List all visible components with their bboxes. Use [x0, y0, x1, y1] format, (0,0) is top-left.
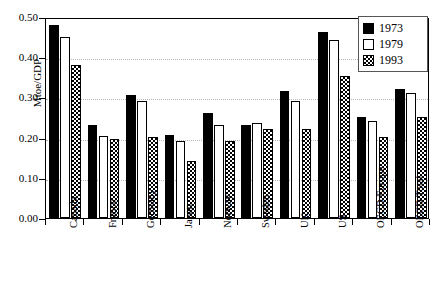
bar	[60, 37, 70, 218]
bar	[291, 101, 301, 218]
y-tick-label: 0.00	[4, 213, 38, 224]
bar	[126, 95, 136, 218]
x-category-label: Canada	[69, 197, 80, 229]
legend-label-1973: 1973	[379, 22, 403, 34]
bar	[340, 76, 350, 218]
bar	[88, 125, 98, 218]
x-tick-mark	[45, 219, 46, 225]
bar-group	[203, 19, 235, 218]
x-tick-mark	[237, 219, 238, 225]
y-tick-label: 0.10	[4, 173, 38, 184]
bar-group	[88, 19, 120, 218]
x-tick-mark	[314, 219, 315, 225]
bar	[302, 129, 312, 218]
bar	[329, 40, 339, 218]
y-tick-label: 0.20	[4, 133, 38, 144]
bar	[357, 117, 367, 218]
bar	[318, 32, 328, 218]
x-category-label: Japan	[184, 204, 195, 228]
bar-group	[241, 19, 273, 218]
legend-item-1979: 1979	[363, 36, 423, 52]
bar-group	[49, 19, 81, 218]
y-tick-label: 0.40	[4, 52, 38, 63]
x-category-label: Norway	[223, 194, 234, 228]
x-tick-mark	[83, 219, 84, 225]
legend-swatch-1993-icon	[363, 55, 374, 66]
y-tick-label: 0.50	[4, 12, 38, 23]
x-category-label: OECD Europe	[376, 166, 387, 228]
bar	[49, 25, 59, 218]
x-tick-mark	[122, 219, 123, 225]
bar	[280, 91, 290, 218]
y-axis-label: Mtoe/GDP	[31, 23, 45, 143]
x-tick-mark	[352, 219, 353, 225]
legend-item-1973: 1973	[363, 20, 423, 36]
x-category-label: France	[108, 199, 119, 228]
y-tick-label: 0.30	[4, 92, 38, 103]
bar	[165, 135, 175, 218]
legend-swatch-1979-icon	[363, 39, 374, 50]
bar	[203, 113, 213, 218]
bar-group	[165, 19, 197, 218]
legend-swatch-1973-icon	[363, 23, 374, 34]
legend: 1973 1979 1993	[358, 16, 428, 72]
x-category-label: OECD Total	[415, 176, 426, 228]
bar	[395, 89, 405, 218]
x-tick-mark	[429, 219, 430, 225]
x-tick-mark	[391, 219, 392, 225]
x-tick-mark	[275, 219, 276, 225]
legend-label-1993: 1993	[379, 54, 403, 66]
x-tick-mark	[199, 219, 200, 225]
x-category-label: Germany	[146, 189, 157, 228]
x-tick-mark	[160, 219, 161, 225]
legend-label-1979: 1979	[379, 38, 403, 50]
bar-group	[280, 19, 312, 218]
legend-item-1993: 1993	[363, 52, 423, 68]
bar-group	[318, 19, 350, 218]
x-category-label: Sweden	[261, 195, 272, 228]
x-category-label: UK	[300, 213, 311, 228]
bar	[241, 125, 251, 218]
chart-figure: Mtoe/GDP 0.500.400.300.200.100.00 Canada…	[0, 0, 443, 302]
x-category-label: US	[338, 215, 349, 228]
